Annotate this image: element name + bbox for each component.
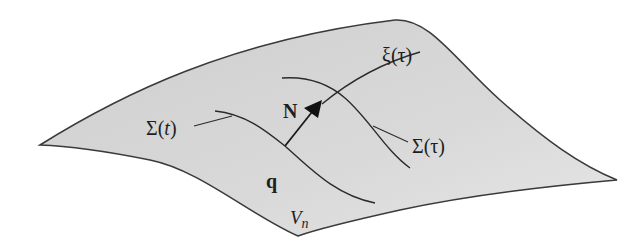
manifold-diagram: Σ(t) N ξ(τ) Σ(τ) q Vn [0, 0, 644, 252]
label-sigma-tau: Σ(τ) [412, 135, 445, 158]
label-point-q: q [266, 170, 277, 193]
label-normal-n: N [283, 100, 298, 122]
label-sigma-t: Σ(t) [146, 117, 177, 140]
label-xi-tau: ξ(τ) [382, 44, 412, 67]
surface-vn [40, 20, 617, 236]
